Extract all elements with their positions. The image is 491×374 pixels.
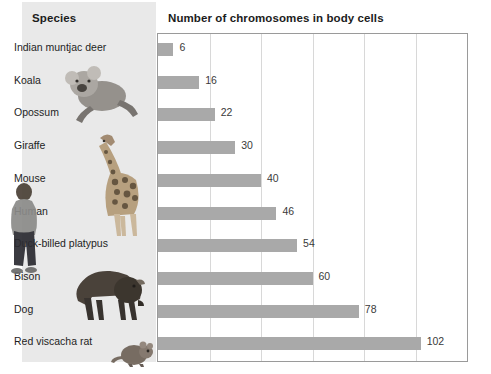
bar-row: 16 — [158, 67, 467, 100]
bar-value-label: 46 — [282, 205, 294, 217]
bar-row: 54 — [158, 230, 467, 263]
bar — [158, 141, 235, 154]
species-label: Opossum — [14, 106, 59, 118]
bar-row: 102 — [158, 328, 467, 361]
plot-area: 61622304046546078102 — [157, 33, 468, 362]
species-label: Giraffe — [14, 139, 45, 151]
bar — [158, 43, 173, 56]
species-column-header: Species — [32, 12, 76, 24]
header-row: Species Number of chromosomes in body ce… — [22, 2, 468, 32]
chromosome-chart-figure: Species Number of chromosomes in body ce… — [0, 0, 491, 374]
bar-row: 22 — [158, 99, 467, 132]
bar-row: 78 — [158, 296, 467, 329]
bar — [158, 305, 359, 318]
bar-value-label: 60 — [319, 270, 331, 282]
species-label: Indian muntjac deer — [14, 41, 106, 53]
bar-value-label: 30 — [241, 139, 253, 151]
giraffe-image — [82, 128, 154, 240]
bar-row: 6 — [158, 34, 467, 67]
bar-row: 40 — [158, 165, 467, 198]
bar-row: 46 — [158, 198, 467, 231]
bar — [158, 239, 297, 252]
bar-value-label: 22 — [221, 106, 233, 118]
bar-value-label: 78 — [365, 303, 377, 315]
chart-title: Number of chromosomes in body cells — [168, 12, 384, 24]
bar — [158, 108, 215, 121]
bar-value-label: 16 — [205, 74, 217, 86]
bar — [158, 337, 421, 350]
bar — [158, 207, 276, 220]
bison-image — [66, 262, 150, 324]
bar-row: 60 — [158, 263, 467, 296]
human-figure-image — [2, 178, 46, 288]
bar-row: 30 — [158, 132, 467, 165]
bar — [158, 272, 313, 285]
koala-image — [62, 62, 144, 126]
bar — [158, 76, 199, 89]
species-label: Red viscacha rat — [14, 335, 92, 347]
species-label: Koala — [14, 74, 41, 86]
bar-value-label: 54 — [303, 237, 315, 249]
bar-value-label: 6 — [179, 41, 185, 53]
bar-value-label: 40 — [267, 172, 279, 184]
bar-value-label: 102 — [427, 335, 445, 347]
species-label: Dog — [14, 303, 33, 315]
bar — [158, 174, 261, 187]
red-viscacha-rat-image — [110, 338, 156, 368]
